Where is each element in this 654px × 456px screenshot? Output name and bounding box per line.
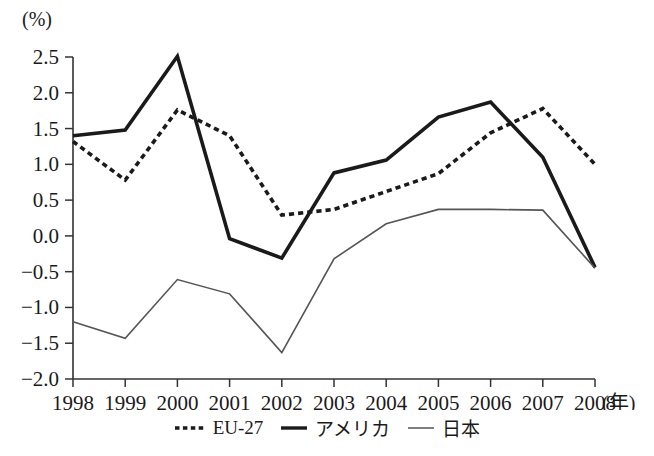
x-axis-tick-label: 1998: [52, 391, 94, 410]
legend-swatch-thick-solid-icon: [280, 421, 308, 435]
series-line-アメリカ: [73, 56, 595, 267]
x-axis-tick-label: 1999: [104, 391, 146, 410]
y-axis-tick-group: [65, 57, 73, 379]
y-axis-unit-label: (%): [22, 8, 52, 31]
x-axis-tick-label: 2001: [209, 391, 251, 410]
x-axis-tick-label: 2004: [365, 391, 408, 410]
series-line-日本: [73, 209, 595, 352]
legend-swatch-dotted-icon: [174, 421, 206, 435]
y-axis-tick-label: −1.0: [21, 295, 59, 319]
y-axis-tick-labels: 2.52.01.51.00.50.0−0.5−1.0−1.5−2.0: [21, 45, 59, 391]
x-axis-tick-label: 2003: [313, 391, 355, 410]
x-axis-tick-label: 2002: [261, 391, 303, 410]
x-axis-tick-label: 2006: [470, 391, 512, 410]
legend-item-america: アメリカ: [280, 414, 390, 441]
y-axis-tick-label: −0.5: [21, 260, 59, 284]
legend-label-america: アメリカ: [315, 414, 390, 441]
y-axis-tick-label: 2.0: [33, 81, 59, 105]
legend-item-japan: 日本: [407, 414, 480, 441]
line-chart-plot: 2.52.01.51.00.50.0−0.5−1.0−1.5−2.0 19981…: [0, 0, 654, 410]
x-axis-tick-label: 2000: [156, 391, 198, 410]
x-axis-tick-labels: 1998199920002001200220032004200520062007…: [52, 391, 635, 410]
chart-figure: (%) 2.52.01.51.00.50.0−0.5−1.0−1.5−2.0 1…: [0, 0, 654, 456]
y-axis-tick-label: 0.0: [33, 224, 59, 248]
legend-item-eu27: EU-27: [174, 417, 264, 439]
x-axis-tick-group: [73, 379, 595, 387]
legend-swatch-thin-solid-icon: [407, 421, 435, 435]
x-axis-tick-label: 2005: [417, 391, 459, 410]
series-line-EU-27: [73, 109, 595, 216]
y-axis-tick-label: 1.0: [33, 152, 59, 176]
y-axis-tick-label: −2.0: [21, 367, 59, 391]
x-axis-unit-label: (年): [602, 392, 635, 410]
data-series-group: [73, 56, 595, 352]
x-axis-tick-label: 2007: [522, 391, 564, 410]
y-axis-tick-label: 0.5: [33, 188, 59, 212]
legend-label-eu27: EU-27: [213, 417, 264, 439]
y-axis-tick-label: 1.5: [33, 117, 59, 141]
y-axis-tick-label: 2.5: [33, 45, 59, 69]
chart-legend: EU-27 アメリカ 日本: [0, 414, 654, 441]
legend-label-japan: 日本: [442, 414, 480, 441]
y-axis-tick-label: −1.5: [21, 331, 59, 355]
